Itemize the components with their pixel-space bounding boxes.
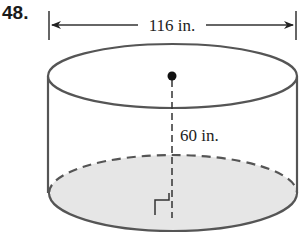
height-label: 60 in.	[180, 126, 219, 145]
diameter-dimension: 116 in.	[49, 11, 296, 40]
cylinder-diagram: 116 in. 60 in.	[0, 0, 301, 239]
base-back-arc-hidden	[49, 155, 297, 193]
diameter-label: 116 in.	[149, 16, 196, 35]
center-dot	[168, 72, 177, 81]
base-front-arc	[49, 193, 297, 231]
